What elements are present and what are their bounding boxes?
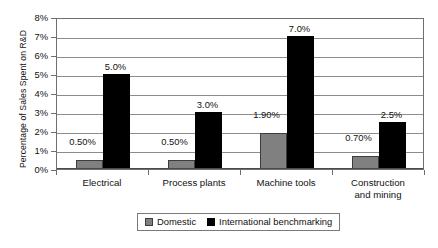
- x-axis-tick-mark: [148, 170, 149, 175]
- y-axis-tick-label: 5%: [18, 70, 48, 79]
- legend-label: International benchmarking: [219, 217, 332, 227]
- bar-international: [379, 122, 406, 170]
- bar-data-label: 0.70%: [337, 133, 381, 143]
- plot-area: [56, 18, 424, 170]
- bar-data-label: 2.5%: [370, 110, 414, 120]
- legend-swatch-icon: [207, 218, 215, 226]
- x-axis-tick-mark: [56, 170, 57, 175]
- y-axis-tick-label: 2%: [18, 127, 48, 136]
- legend-label: Domestic: [157, 217, 196, 227]
- bar-data-label: 3.0%: [186, 100, 230, 110]
- y-axis-tick-label: 3%: [18, 108, 48, 117]
- gridline: [57, 38, 423, 39]
- legend-item: Domestic: [145, 217, 196, 227]
- y-axis-tick-label: 4%: [18, 89, 48, 98]
- bar-domestic: [352, 156, 379, 169]
- x-axis-baseline: [57, 168, 423, 169]
- bar-international: [287, 36, 314, 169]
- bar-data-label: 5.0%: [94, 62, 138, 72]
- bar-domestic: [260, 133, 287, 169]
- bar-data-label: 0.50%: [153, 137, 197, 147]
- bar-data-label: 0.50%: [61, 137, 105, 147]
- y-axis-tick-label: 1%: [18, 146, 48, 155]
- gridline: [57, 57, 423, 58]
- x-axis-tick-mark: [332, 170, 333, 175]
- y-axis-tick-label: 8%: [18, 13, 48, 22]
- x-axis-tick-mark: [424, 170, 425, 175]
- y-axis-tick-label: 7%: [18, 32, 48, 41]
- y-axis-tick-label: 0%: [18, 165, 48, 174]
- bar-chart: Percentage of Sales Spent on R&D 8%7%6%5…: [0, 0, 438, 248]
- legend-swatch-icon: [145, 218, 153, 226]
- bar-international: [103, 74, 130, 169]
- bar-data-label: 7.0%: [278, 24, 322, 34]
- x-axis-category-label: Construction and mining: [324, 177, 432, 200]
- bar-international: [195, 112, 222, 169]
- y-axis-tick-label: 6%: [18, 51, 48, 60]
- chart-legend: DomesticInternational benchmarking: [137, 213, 340, 231]
- x-axis-tick-mark: [240, 170, 241, 175]
- legend-item: International benchmarking: [207, 217, 332, 227]
- bar-data-label: 1.90%: [245, 110, 289, 120]
